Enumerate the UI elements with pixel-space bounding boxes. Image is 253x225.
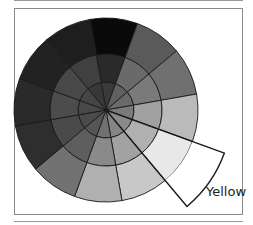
yellow-label: Yellow (205, 184, 246, 199)
color-wheel-diagram: Yellow (0, 0, 253, 225)
